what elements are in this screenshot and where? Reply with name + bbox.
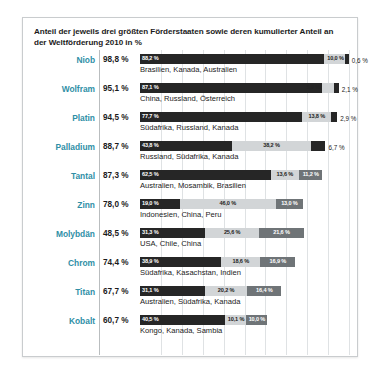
stacked-bar: 88,2 %10,0 %0,6 % xyxy=(140,54,349,64)
cumulative-share-value: 67,7 % xyxy=(103,287,129,296)
bar-segment-1: 43,8 % xyxy=(140,141,232,151)
country-list: Indonesien, China, Peru xyxy=(140,210,221,219)
cumulative-share-value: 74,4 % xyxy=(103,258,129,267)
bar-segment-2-label: 13,8 % xyxy=(302,112,331,121)
bar-segment-1: 19,0 % xyxy=(140,199,180,209)
bar-segment-1-label: 87,1 % xyxy=(142,83,159,92)
bar-segment-3: 11,2 % xyxy=(299,170,322,180)
chart-row: Chrom74,4 %38,9 %18,6 %16,9 %Südafrika, … xyxy=(23,254,359,283)
chart-title: Anteil der jeweils drei größten Förderst… xyxy=(34,26,346,49)
cumulative-share-value: 94,5 % xyxy=(103,113,129,122)
country-list: Australien, Südafrika, Kanada xyxy=(140,297,240,306)
bar-segment-2: 5,9 % xyxy=(322,83,334,93)
bar-segment-2-label: 13,6 % xyxy=(271,170,299,179)
element-label-zinn: Zinn xyxy=(77,200,95,210)
bar-segment-1: 40,5 % xyxy=(140,315,225,325)
bar-segment-1-label: 40,5 % xyxy=(142,315,159,324)
chart-card: Anteil der jeweils drei größten Förderst… xyxy=(22,17,358,357)
bar-segment-1-label: 31,3 % xyxy=(142,228,159,237)
country-list: Brasilien, Kanada, Australien xyxy=(140,65,237,74)
bar-segment-3-label: 2,9 % xyxy=(340,115,356,122)
element-label-kobalt: Kobalt xyxy=(69,316,95,326)
bar-segment-3-label: 10,0 % xyxy=(249,315,266,324)
bar-segment-2: 18,6 % xyxy=(221,257,260,267)
bar-segment-1: 62,5 % xyxy=(140,170,271,180)
stacked-bar: 38,9 %18,6 %16,9 % xyxy=(140,257,349,267)
bar-segment-2: 25,6 % xyxy=(205,228,259,238)
bar-segment-3: 16,4 % xyxy=(247,286,281,296)
bar-segment-3 xyxy=(331,112,337,122)
country-list: China, Russland, Österreich xyxy=(140,94,235,103)
element-label-platin: Platin xyxy=(72,113,95,123)
cumulative-share-value: 87,3 % xyxy=(103,171,129,180)
bar-segment-2-label: 5,9 % xyxy=(306,83,320,92)
element-label-titan: Titan xyxy=(75,287,95,297)
bar-segment-1: 77,7 % xyxy=(140,112,302,122)
bar-segment-1-label: 88,2 % xyxy=(142,54,159,63)
country-list: USA, Chile, China xyxy=(140,239,201,248)
cumulative-share-value: 48,5 % xyxy=(103,229,129,238)
chart-row: Wolfram95,1 %87,1 %5,9 %2,1 %China, Russ… xyxy=(23,80,359,109)
element-label-chrom: Chrom xyxy=(68,258,95,268)
element-label-wolfram: Wolfram xyxy=(62,84,95,94)
bar-segment-1-label: 19,0 % xyxy=(142,199,159,208)
bar-segment-3-label: 0,6 % xyxy=(352,57,368,64)
bar-segment-2-label: 20,2 % xyxy=(205,286,247,295)
stacked-bar: 87,1 %5,9 %2,1 % xyxy=(140,83,349,93)
cumulative-share-value: 95,1 % xyxy=(103,84,129,93)
cumulative-share-value: 78,0 % xyxy=(103,200,129,209)
bar-segment-2-label: 18,6 % xyxy=(221,257,260,266)
bar-segment-1: 31,1 % xyxy=(140,286,205,296)
bar-segment-1-label: 38,9 % xyxy=(142,257,159,266)
bar-segment-3-label: 16,4 % xyxy=(247,286,281,295)
stacked-bar: 62,5 %13,6 %11,2 % xyxy=(140,170,349,180)
bar-segment-3-label: 11,2 % xyxy=(299,170,322,179)
bar-segment-3-label: 6,7 % xyxy=(328,144,344,151)
element-label-tantal: Tantal xyxy=(71,171,95,181)
chart-rows: Niob98,8 %88,2 %10,0 %0,6 %Brasilien, Ka… xyxy=(23,51,359,341)
cumulative-share-value: 88,7 % xyxy=(103,142,129,151)
country-list: Australien, Mosambik, Brasilien xyxy=(140,181,246,190)
bar-segment-1: 88,2 % xyxy=(140,54,324,64)
bar-segment-2-label: 25,6 % xyxy=(205,228,259,237)
element-label-molybdän: Molybdän xyxy=(56,229,95,239)
chart-row: Platin94,5 %77,7 %13,8 %2,9 %Südafrika, … xyxy=(23,109,359,138)
cumulative-share-value: 60,7 % xyxy=(103,316,129,325)
bar-segment-1: 87,1 % xyxy=(140,83,322,93)
bar-segment-1-label: 77,7 % xyxy=(142,112,159,121)
bar-segment-2-label: 10,1 % xyxy=(228,315,245,324)
chart-row: Molybdän48,5 %31,3 %25,6 %21,6 %USA, Chi… xyxy=(23,225,359,254)
element-label-palladium: Palladium xyxy=(55,142,95,152)
chart-row: Tantal87,3 %62,5 %13,6 %11,2 %Australien… xyxy=(23,167,359,196)
bar-segment-3 xyxy=(334,83,338,93)
bar-segment-1-label: 43,8 % xyxy=(142,141,159,150)
bar-segment-2: 13,8 % xyxy=(302,112,331,122)
bar-segment-2-label: 46,0 % xyxy=(180,199,276,208)
country-list: Südafrika, Russland, Kanada xyxy=(140,123,238,132)
country-list: Kongo, Kanada, Sambia xyxy=(140,326,222,335)
bar-segment-2: 20,2 % xyxy=(205,286,247,296)
bar-segment-2-label: 38,2 % xyxy=(232,141,312,150)
bar-segment-3-label: 16,9 % xyxy=(260,257,295,266)
bar-segment-3-label: 2,1 % xyxy=(342,86,358,93)
bar-segment-2-label: 10,0 % xyxy=(327,54,344,63)
stacked-bar: 77,7 %13,8 %2,9 % xyxy=(140,112,349,122)
bar-segment-3: 21,6 % xyxy=(259,228,304,238)
chart-row: Titan67,7 %31,1 %20,2 %16,4 %Australien,… xyxy=(23,283,359,312)
country-list: Russland, Südafrika, Kanada xyxy=(140,152,238,161)
bar-segment-3 xyxy=(345,54,349,64)
bar-segment-3: 10,0 % xyxy=(246,315,267,325)
bar-segment-1: 31,3 % xyxy=(140,228,205,238)
stacked-bar: 40,5 %10,1 %10,0 % xyxy=(140,315,349,325)
chart-row: Zinn78,0 %19,0 %46,0 %13,0 %Indonesien, … xyxy=(23,196,359,225)
bar-segment-1-label: 62,5 % xyxy=(142,170,159,179)
bar-segment-1: 38,9 % xyxy=(140,257,221,267)
bar-segment-2: 38,2 % xyxy=(232,141,312,151)
stacked-bar: 43,8 %38,2 %6,7 % xyxy=(140,141,349,151)
bar-segment-2: 46,0 % xyxy=(180,199,276,209)
bar-segment-3-label: 13,0 % xyxy=(276,199,303,208)
stacked-bar: 31,3 %25,6 %21,6 % xyxy=(140,228,349,238)
chart-row: Palladium88,7 %43,8 %38,2 %6,7 %Russland… xyxy=(23,138,359,167)
bar-segment-3 xyxy=(311,141,325,151)
cumulative-share-value: 98,8 % xyxy=(103,55,129,64)
